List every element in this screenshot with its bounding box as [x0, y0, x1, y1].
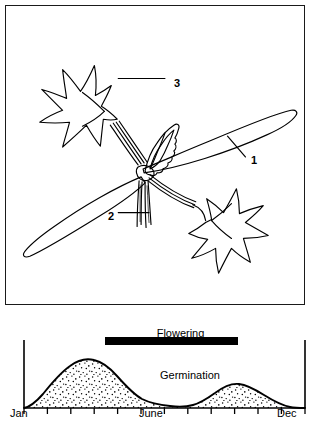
flowering-label-text: Flowering: [157, 327, 205, 339]
callout-number-3: 3: [174, 78, 180, 89]
leader-line-1: [228, 136, 246, 157]
x-tick-label-dec: Dec: [277, 408, 297, 419]
phenology-chart: Flowering Germination Jan June Dec: [0, 310, 317, 424]
figure-root: 3 1 2: [0, 0, 317, 424]
callout-leader-lines: [6, 6, 304, 304]
callout-number-2: 2: [108, 211, 114, 222]
callout-number-1: 1: [251, 155, 257, 166]
x-tick-label-june: June: [139, 408, 163, 419]
x-tick-label-jan: Jan: [10, 408, 28, 419]
x-axis-ticks: [24, 408, 305, 414]
flowering-label: Flowering: [0, 328, 317, 339]
germination-label: Germination: [160, 370, 220, 381]
illustration-panel: 3 1 2: [5, 5, 305, 305]
